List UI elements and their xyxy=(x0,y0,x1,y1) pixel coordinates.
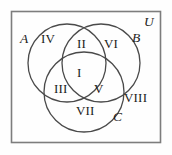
region-label-ii: II xyxy=(77,37,86,50)
label-set-b: B xyxy=(132,31,140,45)
region-label-vii: VII xyxy=(76,104,95,117)
region-label-vi: VI xyxy=(104,37,118,50)
region-label-v: V xyxy=(94,82,104,95)
region-label-i: I xyxy=(77,66,82,79)
label-universal-set-u: U xyxy=(144,15,154,29)
region-label-viii: VIII xyxy=(124,91,147,104)
region-label-iv: IV xyxy=(41,32,55,45)
region-label-iii: III xyxy=(54,82,68,95)
venn-diagram-figure: U A B C I II III IV V VI VII VIII xyxy=(0,0,172,155)
label-set-a: A xyxy=(20,32,28,46)
label-set-c: C xyxy=(113,110,122,124)
